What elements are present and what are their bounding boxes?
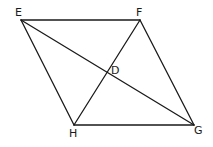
- label-G: G: [194, 124, 203, 137]
- label-F: F: [136, 6, 142, 19]
- label-E: E: [15, 6, 22, 19]
- label-D: D: [111, 64, 119, 77]
- parallelogram-diagram: E F H G D: [0, 0, 213, 147]
- label-H: H: [69, 127, 77, 140]
- segment-FH: [74, 20, 140, 125]
- edges: [21, 20, 194, 125]
